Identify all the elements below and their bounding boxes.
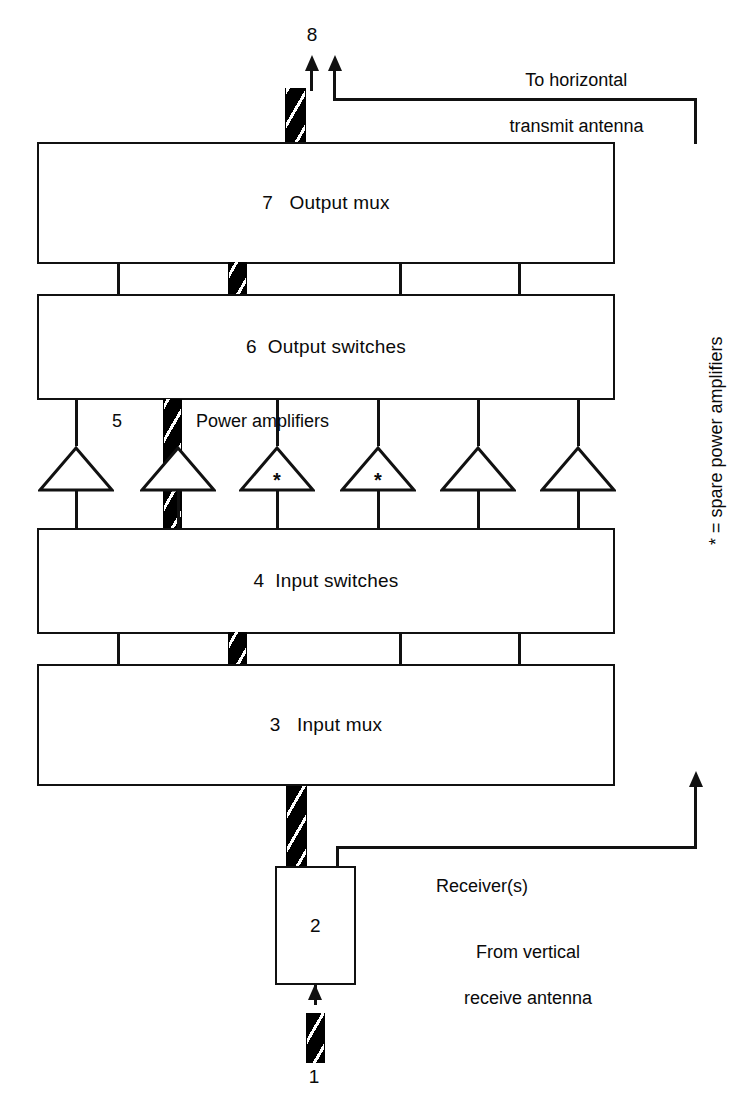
- receive-path-arrowhead: [689, 771, 703, 787]
- block-output-mux[interactable]: 7 Output mux: [37, 142, 615, 264]
- connector-mux7-sw6-4: [518, 264, 521, 295]
- amp-feed-bottom-2: [177, 489, 180, 530]
- connector-sw4-mux3-3: [399, 634, 402, 665]
- amplifier-3-spare-marker: *: [239, 470, 315, 490]
- block-receiver-label: 2: [277, 915, 354, 937]
- amplifier-3[interactable]: *: [239, 446, 315, 492]
- amp-feed-bottom-3: [276, 489, 279, 530]
- block-output-switches[interactable]: 6 Output switches: [37, 294, 615, 400]
- waveguide-receiver-to-input-mux: [286, 786, 307, 868]
- block-output-switches-label: 6 Output switches: [39, 336, 613, 358]
- amplifier-triangle-icon: [440, 446, 516, 492]
- connector-mux7-sw6-3: [399, 264, 402, 295]
- amplifier-triangle-icon: [540, 446, 616, 492]
- amplifier-4[interactable]: *: [340, 446, 416, 492]
- receive-antenna-caption-line1: From vertical: [476, 942, 580, 962]
- waveguide-port-1: [306, 1013, 325, 1063]
- spare-amplifier-legend: * = spare power amplifiers: [706, 336, 727, 545]
- transmit-antenna-caption-line2: transmit antenna: [509, 116, 643, 136]
- amp-feed-top-1: [75, 400, 78, 446]
- port-1-arrowhead: [308, 984, 322, 1000]
- waveguide-port-8: [285, 88, 306, 144]
- waveguide-mux7-sw6: [228, 262, 247, 297]
- connector-mux7-sw6-1: [117, 264, 120, 295]
- connector-sw4-mux3-4: [518, 634, 521, 665]
- amplifier-1[interactable]: [38, 446, 114, 492]
- amplifier-4-spare-marker: *: [340, 470, 416, 490]
- amplifier-triangle-icon: [140, 446, 216, 492]
- block-input-switches[interactable]: 4 Input switches: [37, 528, 615, 634]
- amp-feed-bottom-5: [477, 489, 480, 530]
- diagram-canvas: 8 To horizontal transmit antenna 7 Outpu…: [0, 0, 741, 1115]
- port-8-arrow-shaft: [310, 69, 313, 91]
- block-output-mux-label: 7 Output mux: [39, 192, 613, 214]
- receive-antenna-caption: From vertical receive antenna: [404, 918, 632, 1033]
- amplifier-5[interactable]: [440, 446, 516, 492]
- block-input-mux[interactable]: 3 Input mux: [37, 664, 615, 786]
- amp-feed-bottom-1: [75, 489, 78, 530]
- connector-sw4-mux3-1: [117, 634, 120, 665]
- receive-path-riser: [694, 786, 697, 848]
- amp-feed-top-4: [377, 400, 380, 446]
- transmit-antenna-arrow-shaft: [333, 69, 336, 101]
- amp-feed-top-6: [577, 400, 580, 446]
- receiver-out-wire-horizontal: [336, 846, 697, 849]
- amp-feed-top-5: [477, 400, 480, 446]
- block-input-mux-label: 3 Input mux: [39, 714, 613, 736]
- receivers-caption: Receiver(s): [436, 875, 528, 898]
- amplifier-2[interactable]: [140, 446, 216, 492]
- power-amplifiers-label: Power amplifiers: [196, 411, 329, 432]
- amp-feed-bottom-4: [377, 489, 380, 530]
- waveguide-sw4-mux3: [228, 632, 247, 667]
- block-input-switches-label: 4 Input switches: [39, 570, 613, 592]
- block-receiver[interactable]: 2: [275, 866, 356, 985]
- receive-antenna-caption-line2: receive antenna: [464, 988, 592, 1008]
- port-number-8: 8: [292, 24, 332, 46]
- amp-feed-bottom-6: [577, 489, 580, 530]
- transmit-antenna-caption-line1: To horizontal: [525, 70, 627, 90]
- power-amplifiers-number: 5: [112, 411, 122, 432]
- amplifier-triangle-icon: [38, 446, 114, 492]
- amplifier-6[interactable]: [540, 446, 616, 492]
- port-number-1: 1: [294, 1066, 334, 1088]
- receiver-out-wire-vertical: [336, 846, 339, 868]
